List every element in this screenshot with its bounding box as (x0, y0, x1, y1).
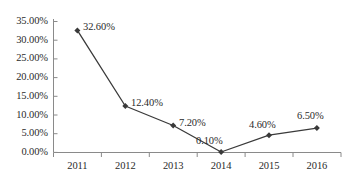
data-series-line (77, 30, 317, 152)
x-axis-ticks (54, 153, 342, 158)
line-chart: 35.00% 30.00% 25.00% 20.00% 15.00% 10.00… (0, 0, 352, 187)
x-axis-tick-label-2014: 2014 (197, 160, 245, 171)
y-axis-tick-label-5: 5.00% (0, 127, 48, 138)
x-axis-tick-label-2012: 2012 (101, 160, 149, 171)
data-label-2011: 32.60% (83, 21, 115, 32)
data-label-2012: 12.40% (131, 97, 163, 108)
data-label-2013: 7.20% (179, 117, 206, 128)
x-axis-tick-label-2013: 2013 (149, 160, 197, 171)
y-axis-ticks (54, 22, 58, 153)
y-axis-tick-label-20: 20.00% (0, 71, 48, 82)
y-axis-tick-label-30: 30.00% (0, 34, 48, 45)
data-label-2014: 0.10% (196, 135, 223, 146)
chart-plot-area (0, 0, 352, 187)
y-axis-tick-label-0: 0.00% (0, 146, 48, 157)
x-axis-tick-label-2015: 2015 (245, 160, 293, 171)
data-label-2015: 4.60% (249, 119, 276, 130)
y-axis-tick-label-25: 25.00% (0, 52, 48, 63)
y-axis-tick-label-15: 15.00% (0, 90, 48, 101)
y-axis-tick-label-10: 10.00% (0, 109, 48, 120)
y-axis-tick-label-35: 35.00% (0, 15, 48, 26)
data-label-2016: 6.50% (297, 110, 324, 121)
x-axis-tick-label-2011: 2011 (53, 160, 101, 171)
x-axis-tick-label-2016: 2016 (293, 160, 341, 171)
